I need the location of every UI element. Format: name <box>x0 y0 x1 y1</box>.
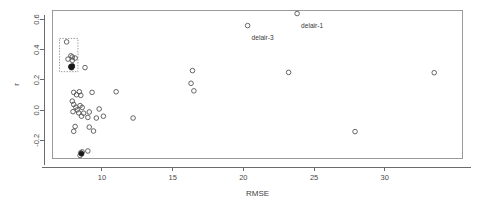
x-tick-label: 10 <box>98 173 106 182</box>
x-tick-label: 20 <box>239 173 247 182</box>
data-point <box>94 116 99 121</box>
y-axis-title: r <box>12 83 21 86</box>
data-point <box>286 70 291 75</box>
point-annotation-label: delair-1 <box>301 22 323 29</box>
x-axis-title: RMSE <box>246 189 269 198</box>
data-point <box>97 107 102 112</box>
x-axis: 1015202530 <box>42 167 471 182</box>
data-point <box>86 115 91 120</box>
plot-canvas: 1015202530-0.20.00.20.40.6RMSErdelair-1d… <box>0 0 480 211</box>
data-point <box>90 90 95 95</box>
data-point <box>64 40 69 45</box>
data-point <box>87 125 92 130</box>
data-point <box>87 110 92 115</box>
data-point <box>432 70 437 75</box>
data-point <box>83 65 88 70</box>
data-point <box>114 89 119 94</box>
point-annotation-label: delair-3 <box>252 34 274 41</box>
data-point <box>71 109 76 114</box>
data-point <box>69 65 74 70</box>
data-point <box>101 114 106 119</box>
data-point <box>73 124 78 129</box>
data-point <box>295 11 300 16</box>
data-point <box>86 149 91 154</box>
x-tick-label: 25 <box>310 173 318 182</box>
y-tick-label: 0.2 <box>32 75 41 85</box>
y-tick-label: -0.2 <box>32 134 41 147</box>
y-axis: -0.20.00.20.40.6 <box>32 14 44 164</box>
data-point <box>91 129 96 134</box>
x-tick-label: 30 <box>381 173 389 182</box>
y-tick-label: 0.4 <box>32 45 41 55</box>
y-tick-label: 0.0 <box>32 105 41 115</box>
series-models <box>64 11 436 158</box>
y-tick-label: 0.6 <box>32 14 41 24</box>
data-point <box>192 89 197 94</box>
data-point <box>131 116 136 121</box>
data-point <box>190 68 195 73</box>
scatter-plot-figure: 1015202530-0.20.00.20.40.6RMSErdelair-1d… <box>0 0 480 211</box>
data-point <box>71 129 76 134</box>
data-point <box>245 23 250 28</box>
data-point <box>189 81 194 86</box>
data-point <box>353 129 358 134</box>
x-tick-label: 15 <box>169 173 177 182</box>
data-point <box>79 151 84 156</box>
